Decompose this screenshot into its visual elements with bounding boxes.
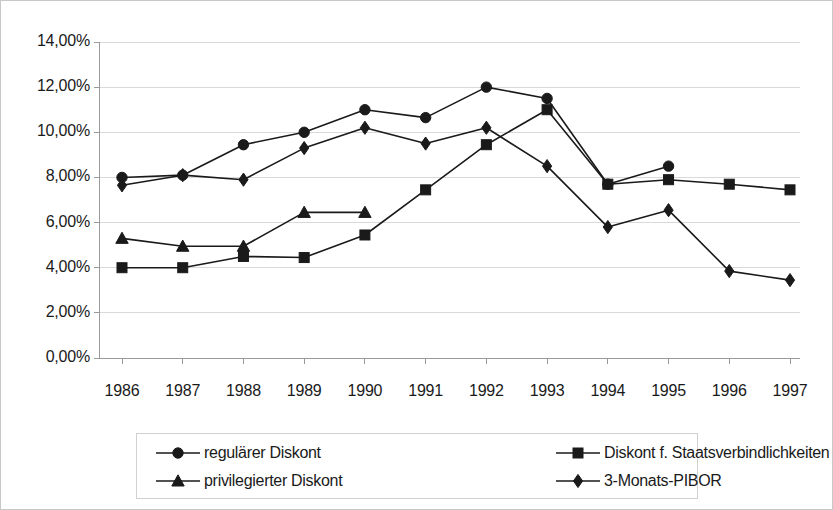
y-axis-label-1: 2,00% bbox=[10, 303, 90, 321]
data-point-0-5 bbox=[420, 112, 430, 122]
data-point-1-3 bbox=[299, 253, 309, 263]
legend-label-0: regulärer Diskont bbox=[204, 444, 321, 462]
x-axis-label-0: 1986 bbox=[87, 382, 157, 400]
data-point-1-7 bbox=[542, 105, 552, 115]
legend-point bbox=[573, 448, 583, 458]
data-point-1-4 bbox=[360, 230, 370, 240]
legend-label-2: privilegierter Diskont bbox=[204, 472, 342, 490]
legend-item-2[interactable]: privilegierter Diskont bbox=[155, 468, 342, 494]
series-3 bbox=[117, 121, 794, 287]
data-point-0-6 bbox=[481, 82, 491, 92]
data-point-3-10 bbox=[725, 265, 734, 278]
chart-legend: regulärer DiskontDiskont f. Staatsverbin… bbox=[136, 433, 698, 499]
x-axis-label-3: 1989 bbox=[269, 382, 339, 400]
data-point-1-1 bbox=[178, 263, 188, 273]
y-axis-label-2: 4,00% bbox=[10, 258, 90, 276]
x-axis-label-7: 1993 bbox=[512, 382, 582, 400]
y-axis-label-7: 14,00% bbox=[10, 32, 90, 50]
x-axis-label-6: 1992 bbox=[451, 382, 521, 400]
data-point-0-3 bbox=[299, 127, 309, 137]
legend-item-0[interactable]: regulärer Diskont bbox=[155, 440, 321, 466]
data-point-0-7 bbox=[542, 93, 552, 103]
data-point-1-8 bbox=[603, 179, 613, 189]
x-axis-label-5: 1991 bbox=[391, 382, 461, 400]
data-point-3-9 bbox=[664, 204, 673, 217]
data-point-1-5 bbox=[421, 185, 431, 195]
data-point-3-2 bbox=[239, 173, 248, 186]
y-axis-label-5: 10,00% bbox=[10, 122, 90, 140]
legend-label-1: Diskont f. Staatsverbindlichkeiten bbox=[604, 444, 829, 462]
y-axis-label-6: 12,00% bbox=[10, 77, 90, 95]
legend-label-3: 3-Monats-PIBOR bbox=[604, 472, 722, 490]
data-point-1-6 bbox=[481, 140, 491, 150]
legend-marker-diamond-icon bbox=[555, 473, 601, 489]
legend-point bbox=[573, 474, 582, 487]
data-point-3-11 bbox=[785, 274, 794, 287]
data-point-3-5 bbox=[421, 137, 430, 150]
series-line-1 bbox=[122, 110, 790, 268]
y-axis-label-4: 8,00% bbox=[10, 167, 90, 185]
x-axis-label-8: 1994 bbox=[573, 382, 643, 400]
legend-item-1[interactable]: Diskont f. Staatsverbindlichkeiten bbox=[555, 440, 829, 466]
x-axis-label-2: 1988 bbox=[208, 382, 278, 400]
data-point-1-9 bbox=[664, 175, 674, 185]
data-point-3-7 bbox=[542, 160, 551, 173]
legend-marker-square-icon bbox=[555, 445, 601, 461]
data-point-2-0 bbox=[116, 232, 128, 243]
x-axis-label-9: 1995 bbox=[634, 382, 704, 400]
series-line-3 bbox=[122, 128, 790, 280]
data-point-0-9 bbox=[663, 161, 673, 171]
series-1 bbox=[117, 105, 795, 273]
legend-marker-circle-icon bbox=[155, 445, 201, 461]
y-axis-label-3: 6,00% bbox=[10, 213, 90, 231]
data-point-1-11 bbox=[785, 185, 795, 195]
data-point-1-10 bbox=[724, 179, 734, 189]
data-point-1-2 bbox=[238, 251, 248, 261]
x-axis-label-10: 1996 bbox=[694, 382, 764, 400]
data-point-1-0 bbox=[117, 263, 127, 273]
legend-item-3[interactable]: 3-Monats-PIBOR bbox=[555, 468, 722, 494]
x-axis-label-1: 1987 bbox=[148, 382, 218, 400]
y-axis-label-0: 0,00% bbox=[10, 348, 90, 366]
data-point-3-3 bbox=[300, 141, 309, 154]
legend-point bbox=[173, 448, 183, 458]
series-2 bbox=[116, 206, 371, 251]
data-point-0-2 bbox=[238, 140, 248, 150]
data-point-0-4 bbox=[360, 105, 370, 115]
legend-marker-triangle-icon bbox=[155, 473, 201, 489]
x-axis-label-11: 1997 bbox=[755, 382, 825, 400]
x-axis-label-4: 1990 bbox=[330, 382, 400, 400]
